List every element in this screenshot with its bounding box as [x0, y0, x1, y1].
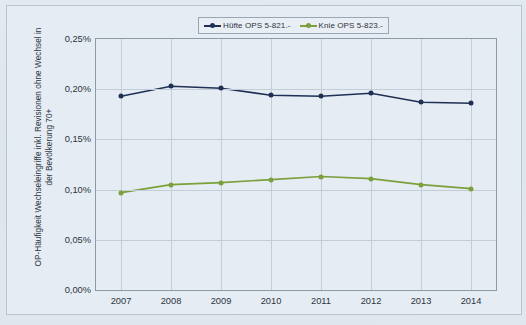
y-gridline — [96, 139, 496, 140]
y-axis-tick-label: 0,25% — [65, 34, 91, 44]
x-gridline — [421, 39, 422, 290]
legend-swatch-huefte — [204, 25, 221, 27]
y-gridline — [96, 190, 496, 191]
data-point — [319, 94, 324, 99]
data-point — [369, 176, 374, 181]
x-axis-tick-label: 2014 — [461, 296, 482, 306]
x-gridline — [121, 39, 122, 290]
legend-item-huefte: Hüfte OPS 5-821.- — [204, 22, 291, 30]
data-point — [119, 94, 124, 99]
data-point — [169, 182, 174, 187]
data-point — [219, 86, 224, 91]
y-axis-tick-label: 0,10% — [65, 185, 91, 195]
y-axis-tick-label: 0,20% — [65, 84, 91, 94]
x-gridline — [371, 39, 372, 290]
legend-swatch-knie — [300, 25, 317, 27]
data-point — [469, 101, 474, 106]
legend-item-knie: Knie OPS 5-823.- — [300, 22, 383, 30]
series-lines — [96, 39, 496, 290]
data-point — [169, 84, 174, 89]
x-gridline — [171, 39, 172, 290]
chart-legend: Hüfte OPS 5-821.- Knie OPS 5-823.- — [198, 17, 389, 34]
x-axis-tick-label: 2008 — [161, 296, 182, 306]
y-gridline — [96, 89, 496, 90]
scan-background: Hüfte OPS 5-821.- Knie OPS 5-823.- OP-Hä… — [0, 0, 526, 325]
x-gridline — [471, 39, 472, 290]
x-axis-tick-label: 2013 — [411, 296, 432, 306]
data-point — [119, 190, 124, 195]
x-axis-tick-label: 2009 — [211, 296, 232, 306]
x-gridline — [271, 39, 272, 290]
data-point — [219, 180, 224, 185]
y-axis-tick-label: 0,05% — [65, 235, 91, 245]
data-point — [269, 93, 274, 98]
data-point — [419, 182, 424, 187]
data-point — [269, 177, 274, 182]
y-axis-tick-label: 0,00% — [65, 285, 91, 295]
data-point — [369, 91, 374, 96]
y-axis-tick-label: 0,15% — [65, 134, 91, 144]
y-gridline — [96, 240, 496, 241]
chart-page: Hüfte OPS 5-821.- Knie OPS 5-823.- OP-Hä… — [6, 5, 522, 315]
plot-area: 0,25%0,20%0,15%0,10%0,05%0,00%2007200820… — [95, 38, 497, 291]
x-axis-tick-label: 2010 — [261, 296, 282, 306]
x-axis-tick-label: 2011 — [311, 296, 331, 306]
data-point — [319, 174, 324, 179]
x-gridline — [221, 39, 222, 290]
y-axis-title: OP-Häufigkeit Wechseleingriffe inkl. Rev… — [33, 22, 55, 272]
data-point — [469, 186, 474, 191]
x-gridline — [321, 39, 322, 290]
data-point — [419, 100, 424, 105]
legend-label-huefte: Hüfte OPS 5-821.- — [223, 22, 291, 30]
x-axis-tick-label: 2012 — [361, 296, 382, 306]
x-axis-tick-label: 2007 — [111, 296, 132, 306]
legend-label-knie: Knie OPS 5-823.- — [319, 22, 383, 30]
